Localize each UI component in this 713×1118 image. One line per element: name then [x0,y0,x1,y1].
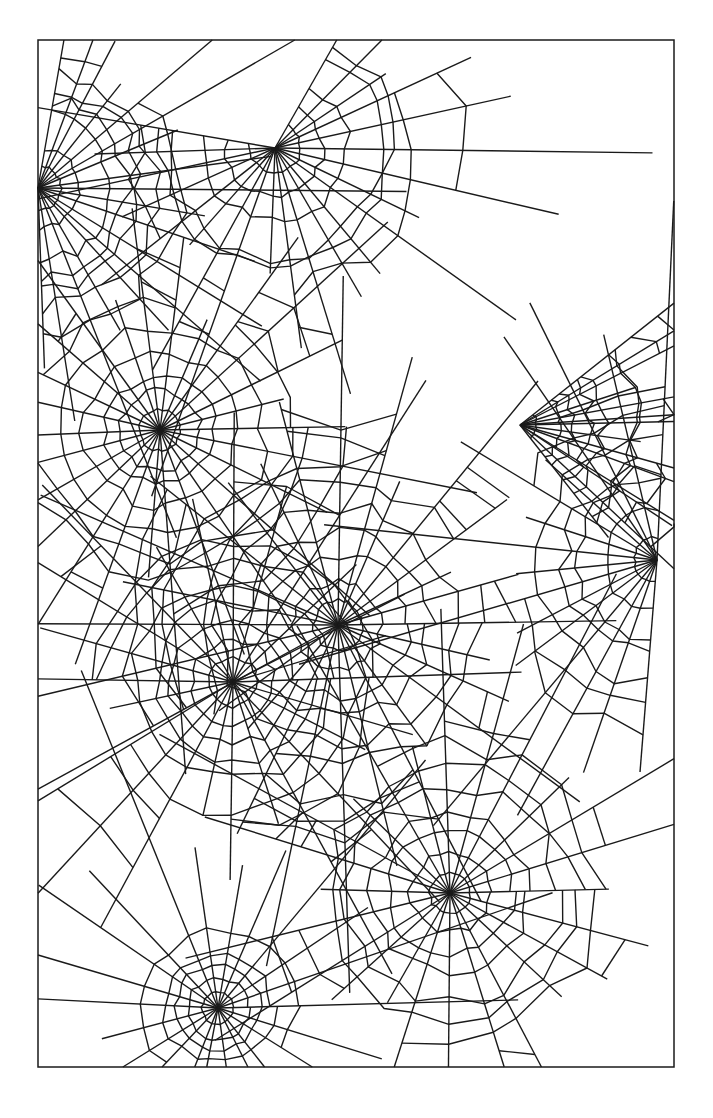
web-spoke [275,148,351,394]
web-spoke [160,430,327,512]
web-spoke [233,412,234,682]
web-spoke [448,893,450,1067]
web-spoke [516,560,657,666]
web-ring [456,481,495,509]
web-ring [331,830,372,862]
web-ring [658,316,674,330]
web-spoke [450,759,674,893]
web-layer [38,40,674,1067]
web-spoke [160,222,388,430]
web-ring [445,721,530,740]
web-spoke [203,682,233,816]
web-ring [141,282,176,300]
web-spoke [275,148,516,320]
web-spoke [275,148,652,153]
web-spoke [275,40,382,148]
web-spoke [95,148,275,154]
web-ring [479,692,488,728]
web-spoke [101,148,275,285]
web-spoke [338,500,507,625]
web-spoke [657,201,674,560]
web-ring [440,501,467,530]
web-spoke [218,1008,382,1059]
web-ring [203,278,224,291]
web-ring [58,314,76,342]
web-spoke [160,430,477,493]
web-spoke [520,346,674,425]
web-ring [299,327,333,334]
web-ring [157,47,395,268]
web-spoke [266,625,338,966]
web-spoke [38,188,44,368]
web-spoke [450,893,648,946]
web-spoke [218,1000,518,1008]
web-ring [593,807,605,845]
spider-web-artwork [0,0,713,1118]
web-spoke [520,388,635,425]
web-ring [281,1006,300,1048]
web-ring [631,337,660,353]
web-spoke [38,130,178,188]
web-spoke [275,57,471,148]
web-spoke [233,486,287,682]
web-ring [602,940,626,976]
web-spoke [38,84,121,188]
web-spoke [275,148,361,297]
web-ring [301,820,317,847]
web-ring [651,524,674,547]
web-ring [61,58,102,66]
web-spoke [640,560,657,772]
web-spoke [338,621,616,625]
web-ring [254,782,419,822]
web-spoke [38,372,160,430]
web-ring [238,322,278,372]
web-ring [535,651,643,734]
web-spoke [38,682,233,801]
web-ring [658,399,674,422]
web-ring [481,585,485,623]
web-spoke [38,40,64,188]
web-ring [437,73,466,190]
web-spoke [230,682,233,880]
web-ring [58,789,133,868]
web-spoke [338,381,538,625]
web-spoke [299,560,657,664]
web-spoke [275,148,559,214]
web-ring [137,249,180,268]
web-ring [61,546,101,577]
web-ring [174,427,347,614]
web-spoke [38,402,160,430]
web-spoke [233,672,522,682]
web-spoke [190,148,275,245]
web-spoke [38,108,275,148]
web-spoke [38,679,233,682]
web-spoke [520,303,674,425]
web-spoke [275,148,380,274]
web-spoke [520,425,672,526]
web-ring [499,1051,535,1055]
web-spoke [338,574,518,625]
web-spoke [38,156,271,188]
web-spoke [504,337,657,560]
web-ring [259,292,310,356]
web-spoke [38,430,160,500]
web-spoke [450,824,674,893]
web-hub-middle-left [38,380,522,973]
web-spoke [149,430,160,577]
web-spoke [218,865,243,1008]
artwork-frame [38,40,674,1067]
web-spoke [218,760,426,1008]
web-ring [266,770,413,804]
web-spoke [38,430,160,624]
web-spoke [160,427,345,430]
web-ring [287,431,385,456]
web-spoke [338,276,343,625]
web-spoke [520,425,641,442]
web-spoke [270,148,275,274]
web-spoke [338,625,350,993]
web-spoke [275,148,419,218]
